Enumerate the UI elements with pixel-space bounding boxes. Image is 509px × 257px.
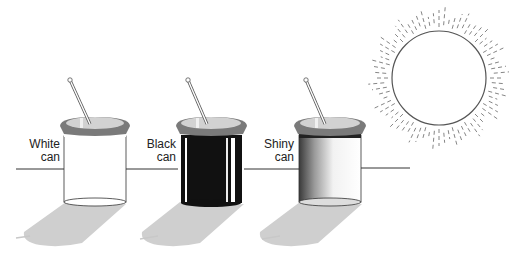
can-shadows [16,202,362,246]
white-can-label: White can [20,138,60,164]
thermometer-icon [304,78,325,124]
thermometer-icon [68,78,90,124]
sun-icon [368,7,509,148]
black-can-label: Black can [136,138,176,164]
shiny-can [294,117,366,206]
thermometer-icon [186,78,207,124]
shiny-can-label: Shiny can [254,138,294,164]
black-can [176,117,247,207]
white-can [60,117,130,206]
diagram-canvas [0,0,509,257]
